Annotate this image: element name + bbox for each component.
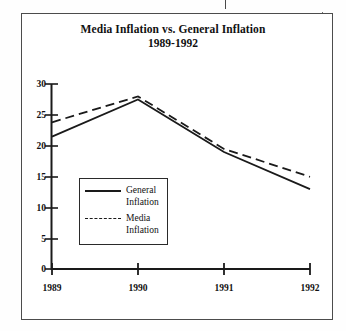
legend-label-media-inflation: Media Inflation <box>126 213 159 237</box>
figure-frame <box>21 13 333 320</box>
chart-legend: General Inflation Media Inflation <box>79 178 168 245</box>
y-tick-label-20: 20 <box>24 141 46 151</box>
y-tick-label-15: 15 <box>24 172 46 182</box>
x-tick-label-1992: 1992 <box>290 283 330 293</box>
x-tick-label-1990: 1990 <box>118 283 158 293</box>
legend-item-media-inflation: Media Inflation <box>85 213 159 237</box>
y-tick-label-10: 10 <box>24 203 46 213</box>
y-tick-label-5: 5 <box>24 234 46 244</box>
x-tick-label-1989: 1989 <box>32 283 72 293</box>
scanned-page: Media Inflation vs. General Inflation 19… <box>0 0 346 331</box>
legend-swatch-solid-line-icon <box>85 185 121 197</box>
y-tick-label-0: 0 <box>24 264 46 274</box>
legend-item-general-inflation: General Inflation <box>85 185 159 209</box>
x-tick-label-1991: 1991 <box>204 283 244 293</box>
page-register-tick <box>225 0 226 9</box>
chart-title: Media Inflation vs. General Inflation <box>0 22 346 38</box>
legend-label-general-inflation: General Inflation <box>126 185 159 209</box>
legend-swatch-dashed-line-icon <box>85 213 121 225</box>
chart-subtitle: 1989-1992 <box>0 37 346 49</box>
y-tick-label-25: 25 <box>24 110 46 120</box>
y-tick-label-30: 30 <box>24 79 46 89</box>
